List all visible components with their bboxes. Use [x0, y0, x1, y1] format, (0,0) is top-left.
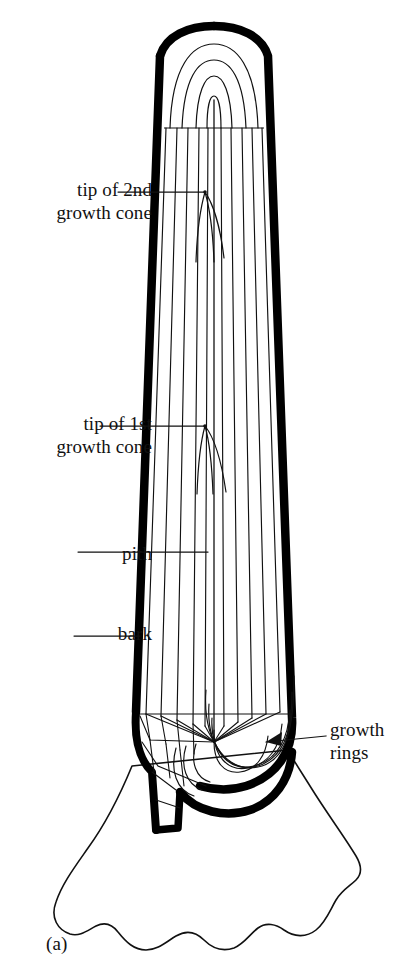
root-flare-outline: [54, 750, 361, 950]
label-tip-of-1st-growth-cone: tip of 1st growth cone: [4, 412, 152, 458]
growth-cone-2nd: [196, 192, 224, 262]
bark-outline-crown: [160, 26, 214, 56]
figure-caption: (a): [46, 932, 106, 955]
label-bark-line1: bark: [4, 622, 152, 645]
trunk-diagram: [0, 0, 398, 980]
label-pith: pith: [4, 542, 152, 565]
label-bark: bark: [4, 622, 152, 645]
label-tip-of-2nd-growth-cone: tip of 2nd growth cone: [4, 178, 152, 224]
leader-tip-1st-dot: [203, 424, 207, 428]
growth-cone-1st: [197, 426, 226, 494]
label-tip-of-2nd-growth-cone-line2: growth cone: [4, 201, 152, 224]
vertical-ring-lines: [146, 100, 280, 740]
label-growth-rings: growth rings: [330, 718, 396, 764]
label-tip-of-1st-growth-cone-line1: tip of 1st: [4, 412, 152, 435]
figure-caption-text: (a): [46, 932, 106, 955]
label-growth-rings-line1: growth: [330, 718, 396, 741]
label-pith-line1: pith: [4, 542, 152, 565]
label-tip-of-2nd-growth-cone-line1: tip of 2nd: [4, 178, 152, 201]
label-growth-rings-line2: rings: [330, 741, 396, 764]
figure-root: tip of 2nd growth cone tip of 1st growth…: [0, 0, 398, 980]
bark-outline-left: [136, 56, 160, 712]
leader-tip-2nd-dot: [203, 190, 207, 194]
label-tip-of-1st-growth-cone-line2: growth cone: [4, 435, 152, 458]
growth-rings-arrowhead: [266, 732, 282, 746]
